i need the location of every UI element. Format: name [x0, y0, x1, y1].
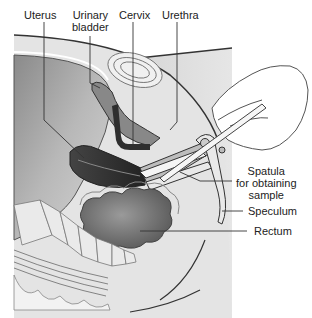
anatomy-illustration [0, 0, 312, 318]
label-spatula-line2: for obtaining [236, 177, 297, 189]
label-spatula-line1: Spatula [236, 165, 297, 177]
label-urinary-bladder-line1: Urinary [72, 9, 109, 21]
label-urethra: Urethra [162, 9, 199, 21]
label-urinary-bladder-line2: bladder [72, 21, 109, 33]
label-uterus: Uterus [24, 9, 56, 21]
label-cervix: Cervix [119, 9, 150, 21]
label-urinary-bladder: Urinary bladder [72, 9, 109, 33]
label-spatula: Spatula for obtaining sample [236, 165, 297, 201]
label-speculum: Speculum [248, 205, 297, 217]
label-rectum: Rectum [254, 225, 292, 237]
pap-smear-diagram: Uterus Urinary bladder Cervix Urethra Sp… [0, 0, 312, 318]
label-spatula-line3: sample [236, 189, 297, 201]
